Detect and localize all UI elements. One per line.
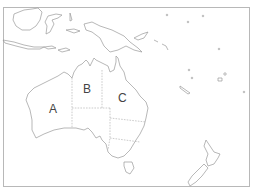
island-dot xyxy=(218,48,220,50)
island-dot xyxy=(243,91,245,93)
borneo-outline xyxy=(13,8,42,30)
new-guinea-outline xyxy=(84,22,142,52)
map-svg xyxy=(0,0,254,196)
lesser-sunda-outline xyxy=(44,46,70,52)
island-dot xyxy=(224,73,226,75)
region-label-b: B xyxy=(83,83,91,95)
state-border xyxy=(110,138,140,142)
solomon-islands-outline xyxy=(154,40,168,50)
island-dot xyxy=(187,21,189,23)
nz-south-island-outline xyxy=(188,164,208,186)
island-dot xyxy=(191,77,193,79)
island-outline xyxy=(218,78,222,81)
sulawesi-outline xyxy=(45,14,62,34)
region-label-c: C xyxy=(118,92,127,104)
new-britain-outline xyxy=(134,32,148,40)
island-dot xyxy=(202,15,204,17)
state-border xyxy=(108,108,110,150)
region-label-a: A xyxy=(49,103,57,115)
island-outline xyxy=(66,29,80,33)
island-dot xyxy=(166,14,168,16)
java-outline xyxy=(3,40,44,49)
nz-north-island-outline xyxy=(204,140,220,166)
new-caledonia-outline xyxy=(180,86,190,94)
state-border xyxy=(110,118,146,122)
tasmania-outline xyxy=(124,162,134,174)
australia-outline xyxy=(26,56,148,158)
island-outline xyxy=(70,13,72,21)
island-dot xyxy=(188,69,190,71)
